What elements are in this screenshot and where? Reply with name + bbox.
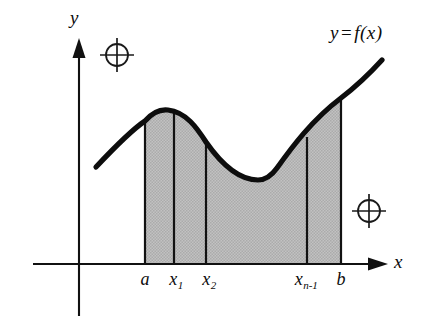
tick-label-b-text: b <box>337 269 346 289</box>
tick-label-xn-1: xn-1 <box>295 270 318 288</box>
tick-label-a: a <box>141 270 150 288</box>
tick-label-x1-subscript: 1 <box>178 279 184 291</box>
y-axis <box>73 38 86 316</box>
tick-label-x2-text: x <box>202 269 210 289</box>
tick-label-xn-1-subscript: n-1 <box>303 279 318 291</box>
registration-mark-bottom-right <box>352 194 386 228</box>
registration-mark-top-left <box>100 38 134 72</box>
curve-equation-rhs: f(x) <box>354 22 382 43</box>
tick-label-x2-subscript: 2 <box>211 279 217 291</box>
tick-label-x1: x1 <box>169 270 183 288</box>
tick-label-a-text: a <box>141 269 150 289</box>
tick-label-x2: x2 <box>202 270 216 288</box>
curve-equation-operator: = <box>339 22 354 43</box>
tick-label-x1-text: x <box>169 269 177 289</box>
figure-riemann-sum-diagram: y x y=f(x) a x1 x2 xn-1 b <box>0 0 437 323</box>
tick-label-xn-1-text: x <box>295 269 303 289</box>
curve-equation-lhs: y <box>330 22 339 43</box>
diagram-canvas <box>0 0 437 323</box>
x-axis-label: x <box>394 252 402 271</box>
y-axis-label: y <box>70 8 78 27</box>
x-axis-arrow-icon <box>368 258 388 271</box>
curve-equation-label: y=f(x) <box>330 23 383 42</box>
y-axis-arrow-icon <box>73 38 86 58</box>
tick-label-b: b <box>337 270 346 288</box>
